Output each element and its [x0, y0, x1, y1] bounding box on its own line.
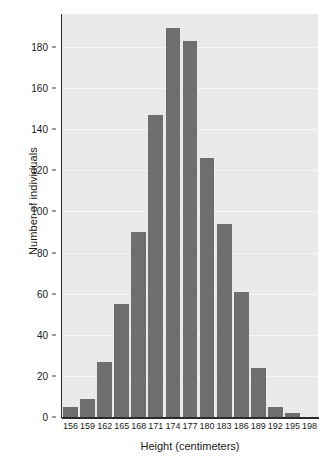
bar: [217, 224, 232, 417]
bar: [114, 304, 129, 417]
y-tick-mark: [52, 129, 56, 130]
y-tick-mark: [52, 334, 56, 335]
y-tick-mark: [52, 293, 56, 294]
bar: [234, 292, 249, 417]
x-tick-label: 162: [97, 421, 112, 431]
bar: [97, 362, 112, 418]
y-tick-mark: [52, 417, 56, 418]
x-tick-label: 159: [80, 421, 95, 431]
y-tick-mark: [52, 88, 56, 89]
y-tick-label: 120: [31, 165, 48, 176]
y-axis-ticks: 020406080100120140160180: [0, 0, 56, 473]
bar: [131, 232, 146, 417]
x-tick-label: 195: [285, 421, 300, 431]
x-tick-label: 192: [268, 421, 283, 431]
bar: [63, 407, 78, 417]
histogram-figure: Number of individuals 020406080100120140…: [0, 0, 330, 473]
y-tick-mark: [52, 252, 56, 253]
x-tick-label: 198: [302, 421, 317, 431]
x-tick-label: 168: [131, 421, 146, 431]
y-tick-mark: [52, 211, 56, 212]
x-tick-label: 189: [251, 421, 266, 431]
y-tick-label: 180: [31, 41, 48, 52]
x-tick-label: 156: [63, 421, 78, 431]
y-tick-mark: [52, 170, 56, 171]
y-tick-label: 20: [37, 370, 48, 381]
bar: [80, 399, 95, 418]
y-tick-mark: [52, 375, 56, 376]
y-tick-label: 140: [31, 124, 48, 135]
y-tick-label: 160: [31, 83, 48, 94]
x-tick-label: 177: [182, 421, 197, 431]
x-tick-label: 165: [114, 421, 129, 431]
bar-series: [62, 14, 318, 417]
bar: [251, 368, 266, 417]
bar: [148, 115, 163, 417]
y-tick-label: 80: [37, 247, 48, 258]
y-tick-label: 0: [42, 412, 48, 423]
x-axis-title: Height (centimeters): [62, 440, 318, 452]
x-tick-label: 174: [165, 421, 180, 431]
x-tick-label: 180: [200, 421, 215, 431]
y-tick-label: 40: [37, 329, 48, 340]
x-tick-label: 171: [148, 421, 163, 431]
bar: [200, 158, 215, 417]
y-tick-label: 100: [31, 206, 48, 217]
bar: [183, 41, 198, 417]
bar: [166, 28, 181, 417]
x-tick-label: 183: [217, 421, 232, 431]
x-axis-ticks: 1561591621651681711741771801831861891921…: [62, 419, 318, 437]
x-tick-label: 186: [234, 421, 249, 431]
bar: [268, 407, 283, 417]
plot-area: [62, 14, 318, 417]
y-tick-mark: [52, 46, 56, 47]
y-tick-label: 60: [37, 288, 48, 299]
